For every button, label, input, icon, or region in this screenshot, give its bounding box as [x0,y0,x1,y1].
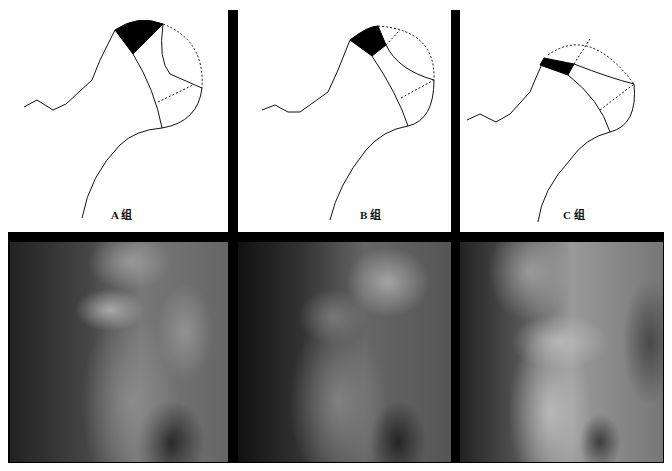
diagram-panel-a: A 组 [0,0,228,232]
femoral-head-diagram-a [0,0,228,232]
radiograph-c [460,242,663,462]
diagram-label-b: B 组 [360,206,381,222]
radiograph-a [10,242,228,462]
separator-left [228,10,238,232]
diagram-label-a: A 组 [111,206,132,222]
separator-right [451,10,460,232]
femoral-head-diagram-c [460,0,672,232]
diagram-panel-c: C 组 [460,0,672,232]
femoral-head-diagram-b [238,0,451,232]
radiograph-b [238,242,451,462]
diagram-label-c: C 组 [563,206,585,222]
diagram-panel-b: B 组 [238,0,451,232]
